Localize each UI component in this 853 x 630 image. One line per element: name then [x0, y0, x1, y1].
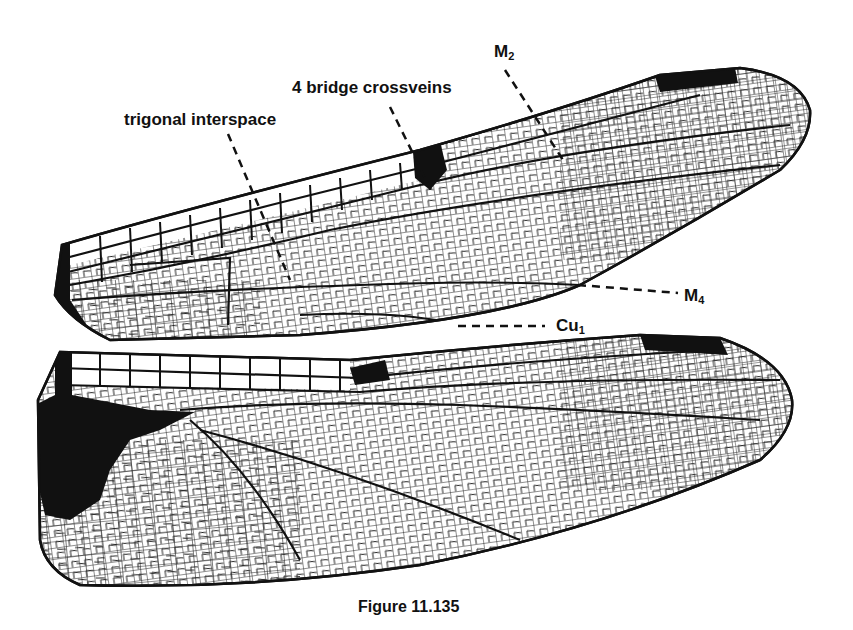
m4-base: M	[684, 286, 698, 305]
m4-subscript: 4	[698, 294, 704, 306]
leader-m4	[578, 285, 678, 293]
figure-caption: Figure 11.135	[358, 598, 459, 616]
label-m4: M4	[684, 286, 704, 306]
m2-base: M	[494, 42, 508, 61]
label-trigonal-interspace: trigonal interspace	[124, 110, 276, 130]
cu1-base: Cu	[556, 316, 579, 335]
hindwing	[30, 330, 810, 600]
label-cu1: Cu1	[556, 316, 585, 336]
forewing	[40, 60, 820, 350]
cu1-subscript: 1	[579, 324, 585, 336]
label-m2: M2	[494, 42, 514, 62]
label-bridge-crossveins: 4 bridge crossveins	[292, 78, 452, 98]
m2-subscript: 2	[508, 50, 514, 62]
